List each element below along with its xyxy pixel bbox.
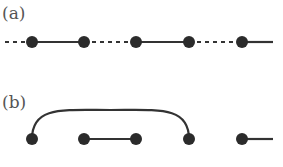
node xyxy=(130,133,142,145)
node xyxy=(78,133,90,145)
node xyxy=(26,133,38,145)
panel-a-chain xyxy=(5,36,273,48)
arc-edge xyxy=(32,110,189,139)
node xyxy=(130,36,142,48)
node xyxy=(78,36,90,48)
node xyxy=(183,36,195,48)
node xyxy=(183,133,195,145)
node xyxy=(236,133,248,145)
chain-diagram xyxy=(0,0,283,167)
panel-b-chain xyxy=(26,110,273,145)
node xyxy=(236,36,248,48)
node xyxy=(26,36,38,48)
